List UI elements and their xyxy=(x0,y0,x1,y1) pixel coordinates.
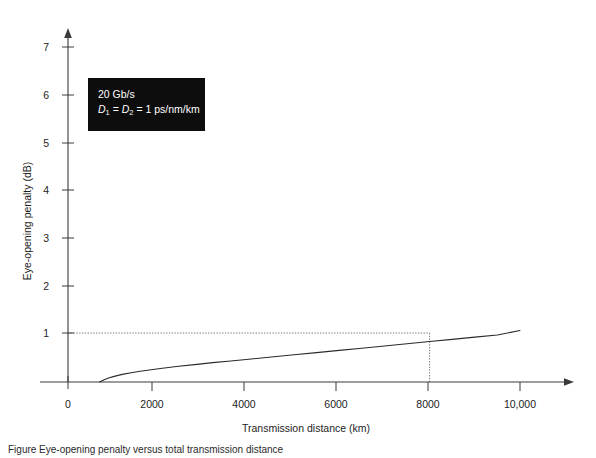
x-tick-label-4000: 4000 xyxy=(232,398,256,410)
annotation-line-dispersion: D1 = D2 = 1 ps/nm/km xyxy=(98,102,205,118)
dispersion-symbol-1: D xyxy=(98,103,106,115)
x-tick-label-8000: 8000 xyxy=(416,398,440,410)
x-tick-label-6000: 6000 xyxy=(324,398,348,410)
dispersion-subscript-2: 2 xyxy=(129,108,133,117)
x-tick-label-0: 0 xyxy=(65,398,71,410)
y-axis-arrow xyxy=(64,28,72,38)
x-tick-group xyxy=(68,376,520,391)
dispersion-equals-1: = xyxy=(110,103,122,115)
annotation-box: 20 Gb/s D1 = D2 = 1 ps/nm/km xyxy=(88,78,205,131)
x-axis-title: Transmission distance (km) xyxy=(242,422,370,434)
y-tick-label-6: 6 xyxy=(43,89,49,101)
y-tick-label-4: 4 xyxy=(43,184,49,196)
figure-caption: Figure Eye-opening penalty versus total … xyxy=(8,443,568,456)
eye-opening-penalty-chart: 7 6 5 4 3 2 1 0 2000 4000 6000 8000 10,0… xyxy=(0,0,596,458)
annotation-line-bitrate: 20 Gb/s xyxy=(98,87,205,102)
y-tick-label-3: 3 xyxy=(43,232,49,244)
x-tick-label-10000: 10,000 xyxy=(504,398,536,410)
x-axis-arrow xyxy=(564,378,574,386)
y-tick-label-7: 7 xyxy=(43,41,49,53)
y-tick-label-2: 2 xyxy=(43,280,49,292)
y-tick-labels: 7 6 5 4 3 2 1 xyxy=(43,41,49,339)
figure-container: 7 6 5 4 3 2 1 0 2000 4000 6000 8000 10,0… xyxy=(0,0,596,458)
data-series-eye-opening-penalty xyxy=(100,331,520,382)
x-tick-label-2000: 2000 xyxy=(140,398,164,410)
dispersion-value: = 1 ps/nm/km xyxy=(134,103,200,115)
x-tick-labels: 0 2000 4000 6000 8000 10,000 xyxy=(65,398,536,410)
y-axis-title: Eye-opening penalty (dB) xyxy=(21,162,33,281)
y-tick-label-5: 5 xyxy=(43,137,49,149)
annotation-bitrate-text: 20 Gb/s xyxy=(98,88,135,100)
dispersion-subscript-1: 1 xyxy=(106,108,110,117)
y-tick-label-1: 1 xyxy=(43,327,49,339)
